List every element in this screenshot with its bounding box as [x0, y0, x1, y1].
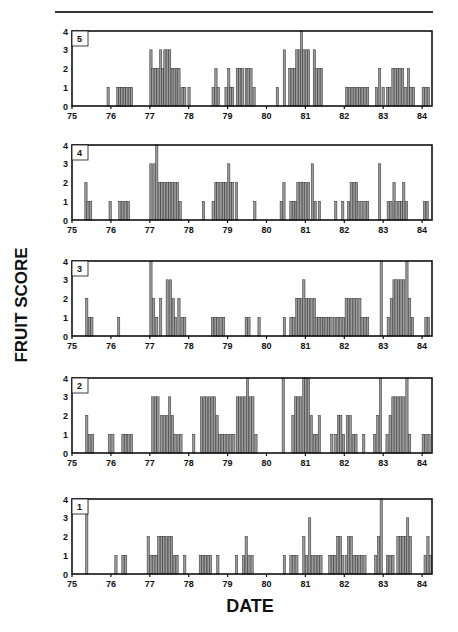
bar	[179, 201, 181, 220]
bar	[296, 50, 298, 106]
bar	[130, 87, 132, 106]
bar	[86, 416, 88, 454]
x-tick-label: 79	[223, 111, 233, 121]
bar-series	[86, 499, 432, 574]
bar	[405, 87, 407, 106]
bar	[169, 183, 171, 221]
bar	[165, 537, 167, 575]
x-tick-label: 82	[339, 458, 349, 468]
bar	[389, 416, 391, 454]
bar	[300, 183, 302, 221]
bar	[204, 555, 206, 574]
top-rule	[55, 11, 433, 13]
bar	[217, 317, 219, 336]
bar	[163, 183, 165, 221]
bar	[333, 317, 335, 336]
bar	[176, 555, 178, 574]
bar	[115, 555, 117, 574]
panel-plot-1: 10123475767778798081828384	[0, 491, 458, 598]
y-tick-label: 1	[63, 430, 68, 440]
bar	[156, 317, 158, 336]
panel-plot-4: 40123475767778798081828384	[0, 137, 458, 244]
bar	[320, 69, 322, 107]
x-tick-label: 78	[184, 341, 194, 351]
bar	[207, 555, 209, 574]
bar	[353, 183, 355, 221]
bar	[318, 416, 320, 454]
bar	[181, 87, 183, 106]
bar	[425, 87, 427, 106]
bar	[155, 69, 157, 107]
bar	[166, 280, 168, 336]
bar	[203, 397, 205, 453]
x-tick-label: 82	[339, 579, 349, 589]
bar	[367, 201, 369, 220]
bar	[335, 434, 337, 453]
bar	[178, 69, 180, 107]
bar	[335, 201, 337, 220]
bar	[224, 434, 226, 453]
bar	[361, 201, 363, 220]
bar	[345, 555, 347, 574]
bar	[199, 555, 201, 574]
bar	[162, 69, 164, 107]
bar	[305, 555, 307, 574]
bar	[377, 416, 379, 454]
bar	[361, 317, 363, 336]
bar	[425, 434, 427, 453]
bar	[406, 378, 408, 453]
bar-series	[85, 145, 429, 220]
x-axis-title: DATE	[200, 596, 300, 617]
x-tick-label: 82	[339, 341, 349, 351]
bar	[220, 317, 222, 336]
bar	[236, 397, 238, 453]
bar	[152, 69, 154, 107]
x-tick-label: 76	[106, 458, 116, 468]
bar	[358, 555, 360, 574]
bar	[337, 416, 339, 454]
bar	[315, 317, 317, 336]
bar	[398, 280, 400, 336]
bar	[158, 537, 160, 575]
bar	[316, 434, 318, 453]
bar	[361, 87, 363, 106]
bar	[337, 537, 339, 575]
bar	[244, 397, 246, 453]
bar	[350, 537, 352, 575]
bar	[125, 555, 127, 574]
bar	[200, 397, 202, 453]
bar	[389, 87, 391, 106]
bar	[339, 317, 341, 336]
bar	[352, 434, 354, 453]
bar	[216, 416, 218, 454]
bar	[300, 31, 302, 106]
y-tick-label: 0	[63, 216, 68, 226]
bar	[180, 434, 182, 453]
bar	[332, 555, 334, 574]
bar	[380, 499, 382, 574]
x-tick-label: 84	[417, 225, 427, 235]
x-tick-label: 81	[300, 225, 310, 235]
bar	[422, 434, 424, 453]
bar-series	[86, 261, 430, 336]
bar	[429, 555, 431, 574]
bar	[217, 183, 219, 221]
bar	[367, 87, 369, 106]
bar	[300, 299, 302, 337]
x-tick-label: 79	[223, 341, 233, 351]
x-tick-label: 75	[67, 225, 77, 235]
bar	[403, 280, 405, 336]
bar	[163, 416, 165, 454]
bar	[318, 201, 320, 220]
bar	[427, 537, 429, 575]
x-tick-label: 76	[106, 225, 116, 235]
bar	[311, 164, 313, 220]
bar	[425, 317, 427, 336]
x-tick-label: 83	[378, 111, 388, 121]
bar	[329, 555, 331, 574]
bar	[184, 87, 186, 106]
bar	[387, 201, 389, 220]
bar	[314, 555, 316, 574]
bar	[339, 537, 341, 575]
bar	[297, 183, 299, 221]
